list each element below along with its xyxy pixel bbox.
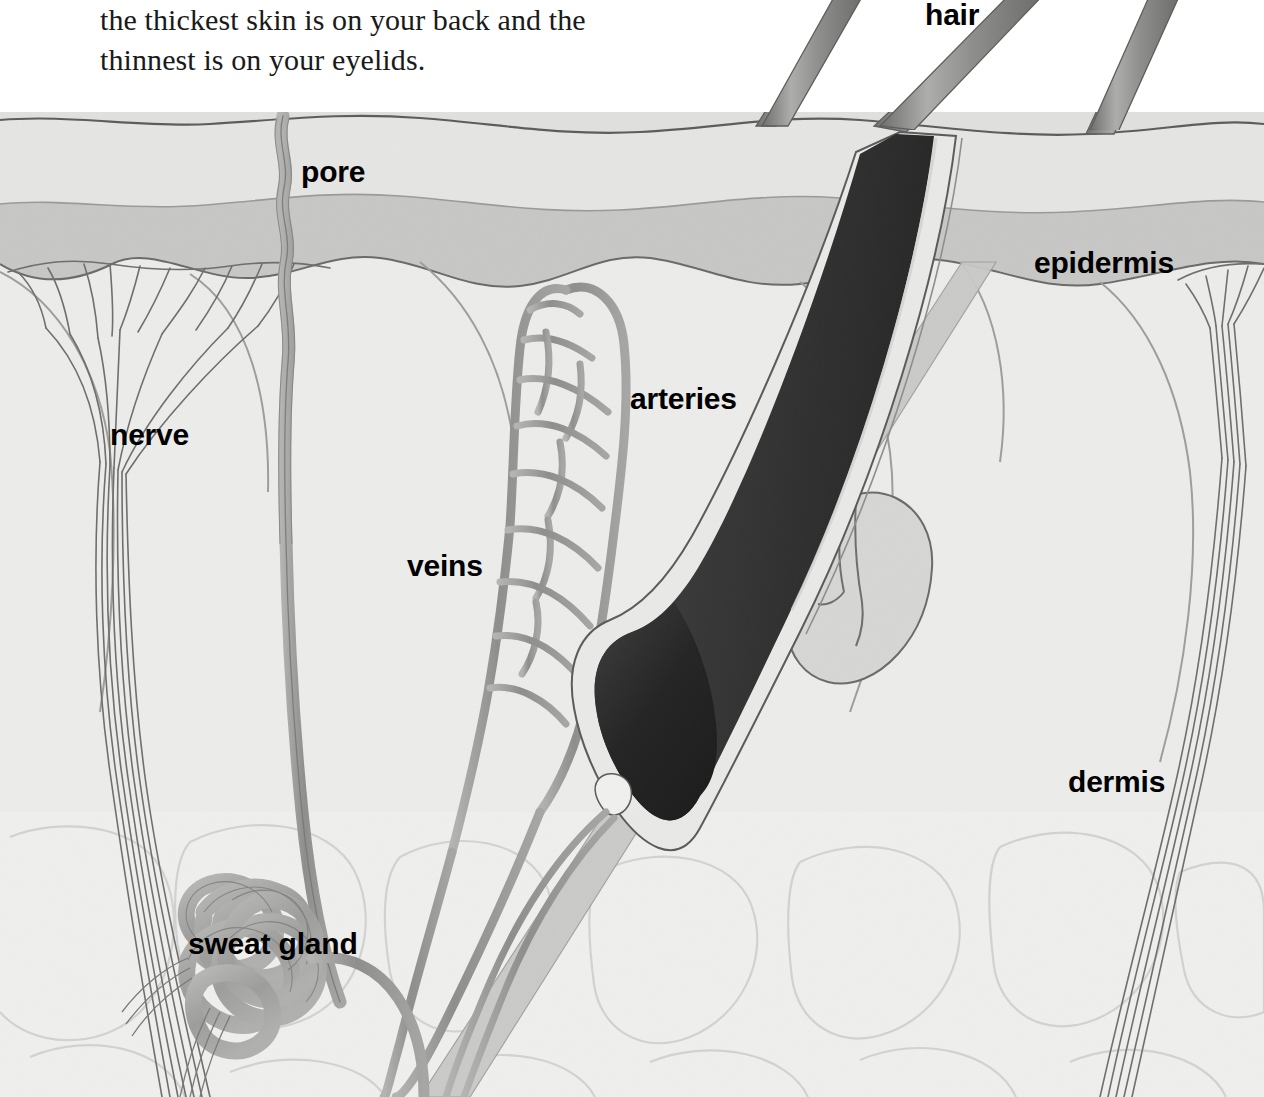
hair-upper-left: [762, 0, 866, 126]
label-sweat-gland: sweat gland: [188, 927, 358, 961]
hair-upper-right: [1090, 0, 1182, 130]
label-dermis: dermis: [1068, 765, 1165, 799]
label-hair: hair: [925, 0, 979, 32]
hair-shafts-above-surface: [0, 0, 1264, 130]
label-nerve: nerve: [110, 418, 189, 452]
label-pore: pore: [301, 155, 365, 189]
label-veins: veins: [407, 549, 483, 583]
skin-diagram-page: the thickest skin is on your back and th…: [0, 0, 1264, 1097]
label-arteries: arteries: [630, 382, 737, 416]
label-epidermis: epidermis: [1034, 246, 1174, 280]
